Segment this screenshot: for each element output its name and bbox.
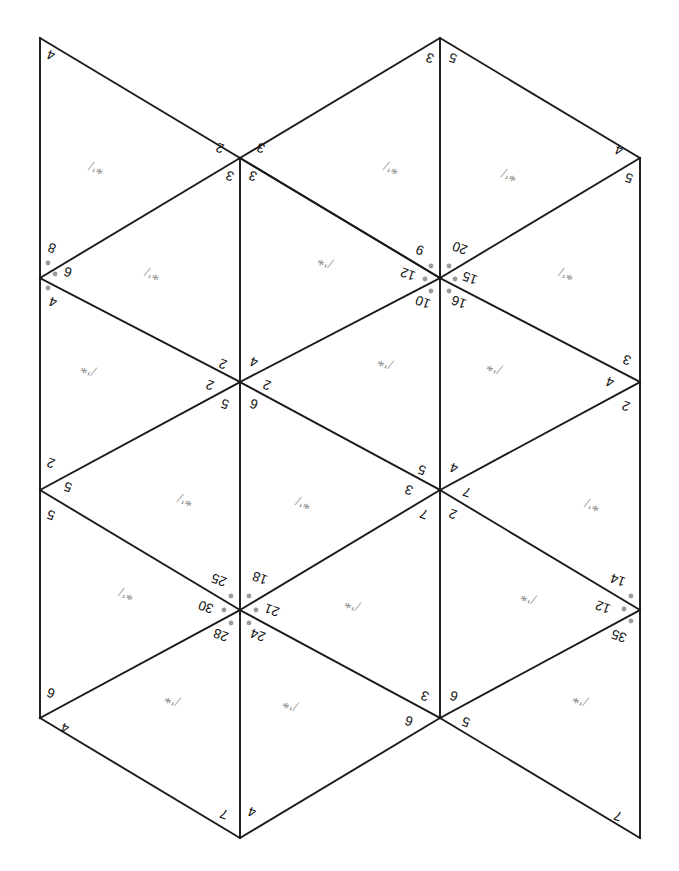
mesh-edge: [40, 158, 240, 278]
vertex-dot: [46, 261, 51, 266]
vertex-label: 35: [609, 626, 628, 645]
vertex-dot: [222, 608, 227, 613]
vertex-label: 5: [45, 507, 57, 524]
vertex-label: 5: [416, 462, 428, 479]
vertex-dot: [229, 621, 234, 626]
vertex-dot: [447, 264, 452, 269]
vertex-label: 15: [460, 268, 479, 287]
vertex-dot: [453, 277, 458, 282]
face-mark: /'*: [375, 353, 395, 373]
mesh-edge: [440, 610, 640, 718]
mesh-edge: [240, 610, 440, 718]
vertex-label: 3: [247, 168, 259, 185]
vertex-dot: [229, 594, 234, 599]
vertex-dot: [247, 594, 252, 599]
mesh-edge: [40, 490, 240, 610]
vertex-label: 3: [224, 168, 236, 185]
mesh-edge: [240, 718, 440, 838]
vertex-dot: [53, 272, 58, 277]
vertex-label: 21: [262, 600, 281, 619]
face-mark: *'/: [555, 264, 576, 285]
vertex-label: 6: [448, 688, 460, 705]
vertex-label: 2: [204, 377, 216, 394]
vertex-dot: [622, 607, 627, 612]
mesh-edge: [440, 382, 640, 490]
vertex-dot: [447, 289, 452, 294]
vertex-label: 7: [612, 808, 624, 825]
vertex-dot: [423, 277, 428, 282]
vertex-label: 5: [460, 714, 472, 731]
face-mark: *'/: [581, 495, 602, 516]
vertex-label: 6: [248, 396, 260, 413]
vertex-label: 12: [593, 597, 612, 616]
mesh-edge: [40, 610, 240, 718]
vertex-label: 4: [58, 720, 71, 737]
vertex-label: 9: [414, 242, 426, 259]
face-mark: *'/: [380, 158, 401, 179]
vertex-label: 20: [450, 238, 469, 257]
mesh-edge: [240, 278, 440, 382]
vertex-dot: [429, 289, 434, 294]
mesh-edge: [40, 278, 240, 382]
vertex-label: 3: [403, 482, 415, 499]
vertex-label: 2: [45, 455, 57, 472]
figure-canvas: *'/*'/*'/*'//'**'//'*/'*/'**'/*'/*'/*'//…: [0, 0, 679, 871]
vertex-label: 6: [62, 264, 74, 281]
vertex-dot: [429, 264, 434, 269]
face-mark: *'/: [115, 584, 136, 605]
vertex-label: 12: [398, 264, 417, 283]
vertex-dot: [46, 286, 51, 291]
vertex-label: 6: [403, 713, 415, 730]
vertex-label: 2: [620, 398, 632, 415]
vertex-label: 2: [447, 506, 459, 523]
vertex-label: 14: [608, 570, 628, 589]
vertex-label: 10: [413, 292, 432, 311]
face-mark: /'*: [484, 358, 504, 378]
vertex-label: 3: [419, 688, 431, 705]
face-mark: /'*: [518, 588, 538, 608]
face-mark: *'/: [85, 158, 106, 179]
mesh-edge: [440, 278, 640, 382]
vertex-label: 8: [46, 240, 58, 257]
vertex-label: 5: [623, 170, 635, 187]
vertex-label: 16: [449, 292, 468, 311]
vertex-label: 5: [62, 479, 74, 496]
vertex-label: 5: [219, 396, 231, 413]
mesh-edge: [240, 382, 440, 490]
face-mark: *'/: [292, 493, 313, 514]
vertex-dot: [629, 594, 634, 599]
mesh-edge: [240, 490, 440, 610]
mesh-edge: [440, 718, 640, 838]
vertex-label: 4: [247, 354, 260, 371]
vertex-label: 5: [447, 50, 459, 67]
face-mark: *'/: [141, 264, 162, 285]
mesh-edge: [40, 38, 240, 158]
vertex-label: 24: [248, 625, 268, 644]
vertex-label: 4: [44, 47, 57, 64]
vertex-label: 30: [196, 597, 215, 616]
vertex-dot: [629, 619, 634, 624]
vertex-label: 2: [217, 356, 229, 373]
vertex-label: 4: [603, 374, 616, 391]
vertex-label: 7: [418, 506, 430, 523]
mesh-edge: [240, 38, 440, 158]
mesh-edge: [40, 718, 240, 838]
vertex-label: 6: [45, 685, 57, 702]
vertex-dot-layer: [46, 261, 634, 626]
vertex-label: 3: [424, 50, 436, 67]
mesh-edge: [440, 158, 640, 278]
face-mark: *'/: [498, 165, 519, 186]
vertex-dot: [254, 608, 259, 613]
triangular-mesh: *'/*'/*'/*'//'**'//'*/'*/'**'/*'/*'/*'//…: [0, 0, 679, 871]
face-mark: /'*: [162, 690, 182, 710]
mesh-edge: [40, 382, 240, 490]
face-mark: *'/: [174, 490, 195, 511]
edge-layer: [40, 38, 640, 838]
vertex-label: 3: [621, 352, 633, 369]
vertex-label: 18: [250, 568, 269, 587]
mesh-edge: [440, 38, 640, 158]
vertex-label: 25: [209, 570, 228, 589]
vertex-label: 4: [46, 294, 59, 311]
vertex-label: 2: [261, 377, 273, 394]
vertex-label: 7: [461, 484, 473, 501]
